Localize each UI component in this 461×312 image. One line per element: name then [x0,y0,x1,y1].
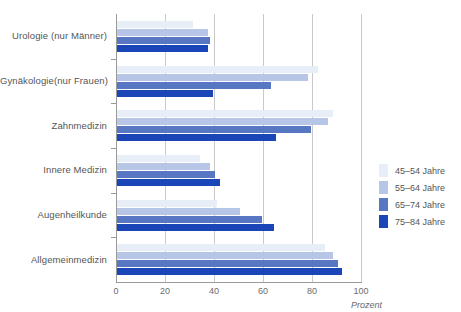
bar-row [117,224,361,231]
y-tick [111,103,116,104]
x-tick-label: 100 [353,286,368,296]
bar[interactable] [117,90,213,97]
bar[interactable] [117,110,333,117]
bar[interactable] [117,171,215,178]
bar-row [117,216,361,223]
category-label: Augenheilkunde [0,209,107,220]
category-label: Allgemeinmedizin [0,254,107,265]
legend-swatch [379,215,388,228]
x-tick-label: 60 [258,286,268,296]
bar[interactable] [117,45,208,52]
bar-row [117,29,361,36]
bar-row [117,179,361,186]
bar-row [117,208,361,215]
bar-row [117,110,361,117]
gridline [165,14,166,282]
legend-item[interactable]: 45–54 Jahre [379,162,445,179]
y-tick [111,193,116,194]
legend-item[interactable]: 75–84 Jahre [379,213,445,230]
plot-area [116,14,361,282]
bar-row [117,200,361,207]
bar-row [117,163,361,170]
bar-row [117,171,361,178]
bar[interactable] [117,134,276,141]
bar[interactable] [117,208,240,215]
y-tick [111,237,116,238]
x-axis-title: Prozent [351,300,382,310]
bar[interactable] [117,200,217,207]
category-label: Urologie (nur Männer) [0,30,107,41]
bar-row [117,155,361,162]
legend-label: 75–84 Jahre [395,217,445,227]
x-tick-label: 40 [209,286,219,296]
bar[interactable] [117,216,262,223]
legend-label: 65–74 Jahre [395,200,445,210]
y-tick [111,59,116,60]
x-tick-label: 20 [160,286,170,296]
bar-row [117,45,361,52]
bar[interactable] [117,268,342,275]
bar-group [117,21,361,53]
bar-row [117,244,361,251]
bar[interactable] [117,155,200,162]
bar-group [117,66,361,98]
x-tick-label: 0 [113,286,118,296]
bar-row [117,21,361,28]
chart-legend: 45–54 Jahre55–64 Jahre65–74 Jahre75–84 J… [379,162,445,230]
legend-label: 45–54 Jahre [395,166,445,176]
bar[interactable] [117,179,220,186]
bar-row [117,252,361,259]
legend-item[interactable]: 65–74 Jahre [379,196,445,213]
gridline [361,14,362,282]
legend-swatch [379,164,388,177]
bar[interactable] [117,29,208,36]
bar-row [117,118,361,125]
bar-row [117,74,361,81]
bar[interactable] [117,224,274,231]
legend-item[interactable]: 55–64 Jahre [379,179,445,196]
x-axis-line [116,282,362,283]
bar-row [117,66,361,73]
bar-row [117,82,361,89]
bar[interactable] [117,260,338,267]
bar[interactable] [117,66,318,73]
bar-row [117,90,361,97]
chart-page: 45–54 Jahre55–64 Jahre65–74 Jahre75–84 J… [0,0,461,312]
gridline [263,14,264,282]
bar-group [117,244,361,276]
bar[interactable] [117,82,271,89]
legend-swatch [379,198,388,211]
bar[interactable] [117,126,311,133]
x-tick-label: 80 [307,286,317,296]
bar-group [117,110,361,142]
bar[interactable] [117,252,333,259]
gridline [312,14,313,282]
category-label: Innere Medizin [0,164,107,175]
bar-row [117,134,361,141]
bar-row [117,37,361,44]
bar[interactable] [117,37,210,44]
legend-swatch [379,181,388,194]
bar[interactable] [117,21,193,28]
legend-label: 55–64 Jahre [395,183,445,193]
bar-row [117,268,361,275]
category-label: Gynäkologie(nur Frauen) [0,75,107,86]
cropped-header-text [0,0,461,6]
bar[interactable] [117,163,210,170]
bar[interactable] [117,118,328,125]
bar[interactable] [117,74,308,81]
bar-group [117,200,361,232]
bar-row [117,260,361,267]
bar-group [117,155,361,187]
bar[interactable] [117,244,325,251]
bar-row [117,126,361,133]
category-label: Zahnmedizin [0,120,107,131]
y-tick [111,148,116,149]
gridline [214,14,215,282]
